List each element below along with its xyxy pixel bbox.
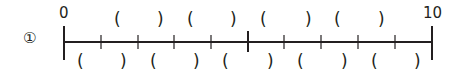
bottom-blank-3-open[interactable]: ( — [222, 53, 229, 70]
top-blank-3-close[interactable]: ) — [305, 11, 312, 28]
top-blank-3-open[interactable]: ( — [260, 11, 267, 28]
top-blank-2-close[interactable]: ) — [230, 11, 237, 28]
top-blank-4-open[interactable]: ( — [334, 11, 341, 28]
bottom-blank-5-open[interactable]: ( — [371, 53, 378, 70]
bottom-blank-3-close[interactable]: ) — [267, 53, 274, 70]
number-line — [0, 0, 458, 77]
top-blank-4-close[interactable]: ) — [378, 11, 385, 28]
bottom-blank-2-open[interactable]: ( — [150, 53, 157, 70]
top-blank-2-open[interactable]: ( — [187, 11, 194, 28]
number-line-svg — [0, 0, 458, 77]
bottom-blank-2-close[interactable]: ) — [193, 53, 200, 70]
bottom-blank-1-close[interactable]: ) — [120, 53, 127, 70]
bottom-blank-4-open[interactable]: ( — [297, 53, 304, 70]
top-blank-1-close[interactable]: ) — [157, 11, 164, 28]
bottom-blank-5-close[interactable]: ) — [414, 53, 421, 70]
label-end: 10 — [423, 6, 442, 21]
bottom-blank-1-open[interactable]: ( — [77, 53, 84, 70]
label-start: 0 — [59, 6, 69, 21]
top-blank-1-open[interactable]: ( — [114, 11, 121, 28]
bottom-blank-4-close[interactable]: ) — [341, 53, 348, 70]
